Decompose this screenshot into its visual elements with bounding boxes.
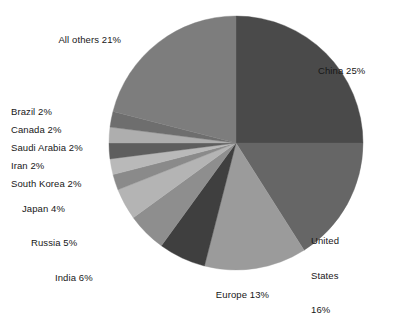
pie-label-all-others: All others 21% — [48, 22, 148, 57]
pie-label-united-states-line2: States — [311, 270, 339, 282]
pie-label-russia: Russia 5% — [20, 225, 115, 260]
pie-label-all-others-text: All others 21% — [58, 34, 121, 45]
pie-label-china-text: China 25% — [318, 65, 365, 76]
pie-label-united-states-line3: 16% — [311, 304, 339, 316]
pie-label-united-states-line1: United — [311, 235, 339, 247]
pie-label-india-text: India 6% — [55, 272, 93, 283]
pie-label-india: India 6% — [44, 260, 134, 295]
pie-label-brazil-text: Brazil 2% — [11, 106, 52, 117]
pie-label-china: China 25% — [307, 53, 365, 88]
pie-label-europe: Europe 13% — [192, 277, 282, 312]
pie-label-brazil: Brazil 2% — [0, 94, 97, 129]
pie-label-europe-text: Europe 13% — [216, 289, 269, 300]
pie-label-japan-text: Japan 4% — [22, 203, 65, 214]
pie-label-russia-text: Russia 5% — [31, 237, 77, 248]
pie-label-united-states: United States 16% — [311, 212, 339, 317]
